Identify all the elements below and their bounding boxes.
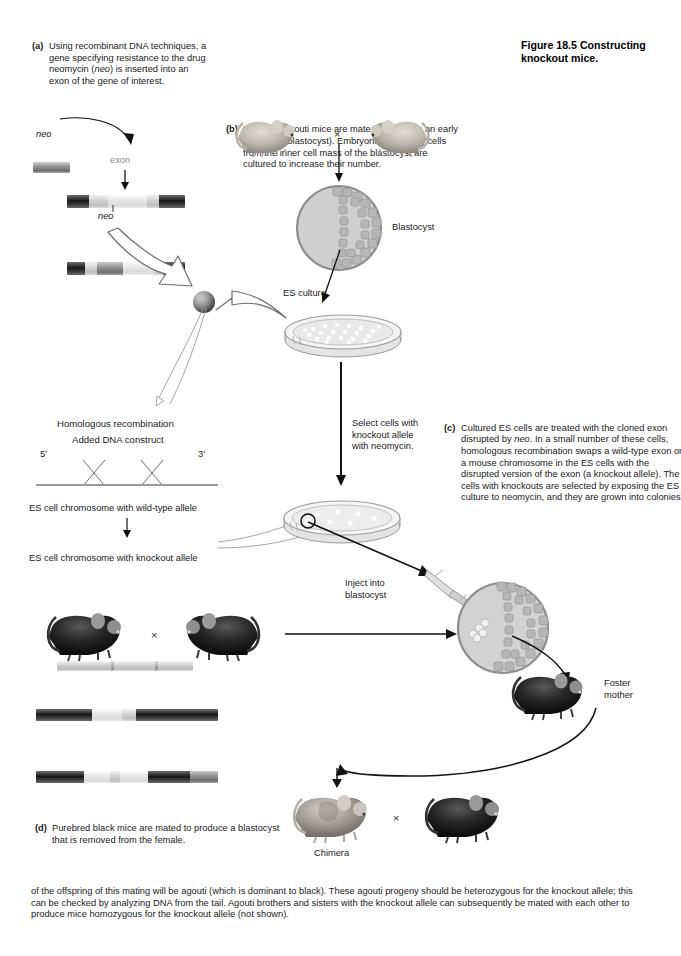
panel-f-caption-lower: of the offspring of this mating will be … [31, 886, 649, 921]
agouti-mouse-right [362, 113, 434, 157]
construct-to-es-hollow-arrow [104, 228, 200, 300]
neo-inserted-label: neo [98, 211, 114, 223]
figure-title-number: Figure 18.5 [521, 39, 577, 51]
panel-b-mating-down-arrow [332, 144, 346, 184]
panel-a-italic-neo: neo [94, 64, 110, 74]
panel-a-marker: (a) [32, 41, 43, 53]
neo-inserted-text: neo [98, 211, 114, 221]
culture-to-cell-hollow-arrow [214, 290, 294, 330]
wildtype-chromosome-bar [36, 709, 218, 721]
panel-f-cross-symbol: × [393, 812, 399, 824]
black-mouse-right [175, 605, 267, 661]
figure-title: Figure 18.5 Constructing knockout mice. [521, 39, 673, 65]
recombination-down-arrow [120, 518, 134, 540]
panel-f-text-3: of the offspring of this mating will be … [31, 886, 633, 919]
panel-c-caption: (c) Cultured ES cells are treated with t… [444, 423, 681, 504]
foster-to-chimera-curve [300, 700, 600, 786]
black-mouse-chimera-mate [418, 787, 510, 843]
black-mouse-left [40, 605, 132, 661]
panel-d-marker: (d) [35, 823, 47, 835]
chimera-label: Chimera [314, 848, 349, 860]
panel-d-text: Purebred black mice are mated to produce… [52, 823, 279, 845]
recombination-title: Homologous recombination [57, 418, 174, 430]
petri-dish-es-culture [283, 306, 403, 360]
inject-line-2: blastocyst [345, 590, 386, 602]
gene-bar-wildtype [67, 195, 185, 208]
select-cells-line-1: Select cells with [352, 418, 462, 430]
neo-fragment-label: neo [36, 129, 52, 141]
panel-c-italic-neo: neo [514, 434, 530, 444]
select-cells-label: Select cells with knockout allele with n… [352, 418, 462, 453]
neo-fragment-bar [33, 162, 70, 173]
wildtype-chromosome-label: ES cell chromosome with wild-type allele [29, 503, 197, 515]
select-cells-line-2: knockout allele [352, 430, 462, 442]
select-cells-arrow [334, 362, 348, 488]
panel-d-cross-symbol: × [151, 629, 157, 641]
foster-mother-label: Foster mother [604, 678, 633, 701]
chimera-mouse [286, 787, 378, 843]
agouti-mouse-left [231, 113, 303, 157]
neo-label-text: neo [36, 129, 52, 139]
panel-c-text-2: . In a small number of these cells, homo… [461, 434, 681, 502]
inject-label: Inject into blastocyst [345, 578, 386, 601]
select-cells-line-3: with neomycin. [352, 441, 462, 453]
blastocyst-label: Blastocyst [392, 222, 434, 234]
inject-line-1: Inject into [345, 578, 386, 590]
inject-into-blastocyst-arrow [306, 520, 438, 582]
panel-a-down-arrow [118, 170, 132, 192]
five-prime-label: 5' [40, 449, 47, 461]
added-dna-construct-bar [57, 661, 193, 671]
black-mating-to-blastocyst-arrow [285, 627, 461, 641]
recombination-subtitle: Added DNA construct [72, 434, 164, 446]
foster-line-2: mother [604, 690, 633, 702]
panel-a-caption: (a) Using recombinant DNA techniques, a … [32, 41, 209, 87]
exon-label: exon [110, 155, 130, 167]
knockout-chromosome-label: ES cell chromosome with knockout allele [29, 553, 197, 565]
panel-b-cross-symbol: × [334, 128, 340, 140]
wildtype-chromosome-thinline [36, 484, 218, 486]
knockout-chromosome-bar [36, 771, 218, 783]
cell-to-recombination-leader [150, 300, 212, 410]
panel-d-caption: (d) Purebred black mice are mated to pro… [35, 823, 292, 846]
foster-line-1: Foster [604, 678, 633, 690]
neo-insertion-arrow [58, 113, 143, 151]
three-prime-label: 3' [198, 449, 205, 461]
